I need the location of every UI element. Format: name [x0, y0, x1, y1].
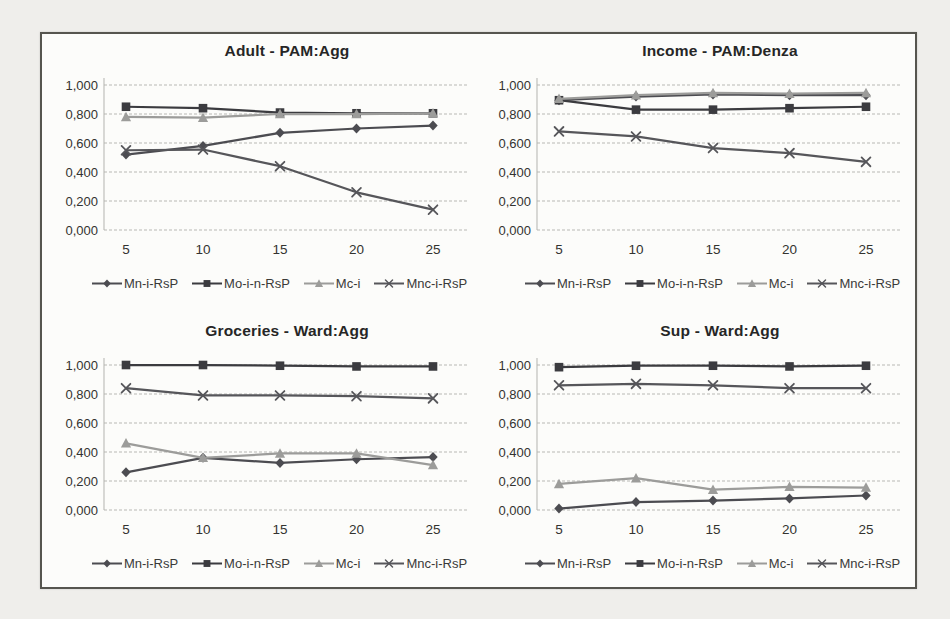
legend-label: Mc-i [336, 276, 361, 291]
triangle-legend-key-icon [736, 557, 768, 570]
y-tick-label: 0,200 [498, 194, 531, 209]
legend-item-Mnc-i-RsP: Mnc-i-RsP [373, 556, 467, 571]
legend-label: Mnc-i-RsP [839, 276, 900, 291]
y-tick-label: 0,600 [65, 136, 98, 151]
square-marker [709, 361, 718, 370]
plot-area: 0,0000,2000,4000,6000,8001,000510152025 [479, 344, 909, 550]
legend-label: Mo-i-n-RsP [224, 556, 290, 571]
diamond-marker [536, 559, 544, 567]
y-tick-label: 0,800 [65, 387, 98, 402]
diamond-marker [536, 279, 544, 287]
x-tick-label: 10 [628, 242, 643, 257]
x-legend-key-icon [806, 277, 838, 290]
square-marker [352, 362, 361, 371]
figure-panel: Adult - PAM:Agg 0,0000,2000,4000,6000,80… [40, 32, 917, 589]
legend-item-Mn-i-RsP: Mn-i-RsP [91, 276, 178, 291]
y-tick-label: 1,000 [65, 78, 98, 93]
y-tick-label: 0,400 [498, 445, 531, 460]
diamond-marker [352, 124, 361, 134]
y-tick-label: 0,200 [65, 474, 98, 489]
chart-legend: Mn-i-RsPMo-i-n-RsPMc-iMnc-i-RsP [46, 270, 476, 296]
y-tick-label: 0,400 [65, 445, 98, 460]
legend-item-Mnc-i-RsP: Mnc-i-RsP [806, 556, 900, 571]
legend-label: Mc-i [769, 276, 794, 291]
x-tick-label: 10 [628, 522, 643, 537]
diamond-marker [275, 458, 284, 468]
legend-item-Mn-i-RsP: Mn-i-RsP [524, 276, 611, 291]
y-tick-label: 0,800 [498, 107, 531, 122]
diamond-marker [275, 128, 284, 138]
y-tick-label: 1,000 [65, 358, 98, 373]
triangle-legend-key-icon [736, 277, 768, 290]
chart-adult-pam-agg: Adult - PAM:Agg 0,0000,2000,4000,6000,80… [46, 36, 476, 308]
square-marker [199, 361, 208, 370]
y-tick-label: 0,600 [498, 416, 531, 431]
x-tick-label: 15 [705, 242, 720, 257]
diamond-marker [708, 496, 717, 506]
y-tick-label: 0,600 [65, 416, 98, 431]
x-tick-label: 25 [858, 522, 873, 537]
square-marker [632, 361, 641, 370]
legend-item-Mn-i-RsP: Mn-i-RsP [524, 556, 611, 571]
square-marker [637, 560, 644, 567]
x-legend-key-icon [806, 557, 838, 570]
x-tick-label: 5 [555, 522, 563, 537]
chart-groceries-ward-agg: Groceries - Ward:Agg 0,0000,2000,4000,60… [46, 316, 476, 588]
legend-item-Mo-i-n-RsP: Mo-i-n-RsP [191, 556, 290, 571]
chart-income-pam-denza: Income - PAM:Denza 0,0000,2000,4000,6000… [479, 36, 909, 308]
x-tick-label: 15 [705, 522, 720, 537]
legend-label: Mo-i-n-RsP [224, 276, 290, 291]
diamond-legend-key-icon [524, 277, 556, 290]
chart-title: Adult - PAM:Agg [46, 36, 476, 64]
legend-item-Mnc-i-RsP: Mnc-i-RsP [373, 276, 467, 291]
square-marker [429, 362, 438, 371]
y-tick-label: 0,000 [65, 223, 98, 238]
square-marker [785, 104, 794, 113]
legend-item-Mc-i: Mc-i [736, 556, 794, 571]
square-marker [862, 102, 871, 111]
legend-label: Mnc-i-RsP [406, 556, 467, 571]
diamond-marker [861, 491, 870, 501]
y-tick-label: 0,600 [498, 136, 531, 151]
square-marker [122, 102, 131, 111]
x-tick-label: 20 [349, 242, 364, 257]
chart-title: Sup - Ward:Agg [479, 316, 909, 344]
x-tick-label: 5 [555, 242, 563, 257]
y-tick-label: 0,800 [65, 107, 98, 122]
diamond-marker [103, 559, 111, 567]
square-marker [122, 361, 131, 370]
chart-title: Income - PAM:Denza [479, 36, 909, 64]
plot-area: 0,0000,2000,4000,6000,8001,000510152025 [46, 344, 476, 550]
x-tick-label: 15 [272, 242, 287, 257]
legend-item-Mo-i-n-RsP: Mo-i-n-RsP [624, 276, 723, 291]
chart-legend: Mn-i-RsPMo-i-n-RsPMc-iMnc-i-RsP [479, 270, 909, 296]
chart-legend: Mn-i-RsPMo-i-n-RsPMc-iMnc-i-RsP [479, 550, 909, 576]
legend-label: Mc-i [769, 556, 794, 571]
legend-item-Mnc-i-RsP: Mnc-i-RsP [806, 276, 900, 291]
legend-label: Mo-i-n-RsP [657, 276, 723, 291]
chart-legend: Mn-i-RsPMo-i-n-RsPMc-iMnc-i-RsP [46, 550, 476, 576]
square-legend-key-icon [191, 557, 223, 570]
chart-title: Groceries - Ward:Agg [46, 316, 476, 344]
diamond-legend-key-icon [91, 557, 123, 570]
diamond-legend-key-icon [91, 277, 123, 290]
square-marker [555, 363, 564, 372]
x-legend-key-icon [373, 277, 405, 290]
legend-item-Mn-i-RsP: Mn-i-RsP [91, 556, 178, 571]
legend-label: Mn-i-RsP [124, 276, 178, 291]
square-legend-key-icon [624, 557, 656, 570]
legend-label: Mc-i [336, 556, 361, 571]
x-tick-label: 25 [425, 522, 440, 537]
square-marker [637, 280, 644, 287]
x-tick-label: 20 [349, 522, 364, 537]
legend-label: Mn-i-RsP [124, 556, 178, 571]
square-legend-key-icon [191, 277, 223, 290]
diamond-marker [554, 504, 563, 514]
y-tick-label: 0,000 [65, 503, 98, 518]
legend-item-Mo-i-n-RsP: Mo-i-n-RsP [624, 556, 723, 571]
x-tick-label: 25 [858, 242, 873, 257]
y-tick-label: 0,400 [65, 165, 98, 180]
square-marker [199, 104, 208, 113]
legend-item-Mc-i: Mc-i [303, 556, 361, 571]
legend-label: Mn-i-RsP [557, 556, 611, 571]
